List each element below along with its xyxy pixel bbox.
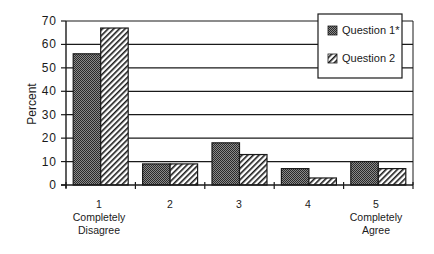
category-sublabel-5b: Agree: [362, 224, 390, 236]
legend-swatch-q2: [328, 54, 337, 63]
y-tick-label: 70: [42, 14, 57, 28]
bar-q2-cat3: [240, 155, 268, 185]
bar-q1-cat2: [143, 164, 171, 185]
y-tick-label: 10: [42, 155, 57, 169]
y-tick-label: 0: [49, 178, 57, 192]
y-tick-label: 60: [42, 37, 57, 51]
category-label-5: 5: [373, 198, 379, 210]
category-sublabel-5a: Completely: [350, 211, 403, 223]
bar-q2-cat4: [309, 178, 337, 185]
legend-label-q1: Question 1*: [342, 24, 400, 36]
y-tick-label: 50: [42, 61, 57, 75]
bar-chart: 010203040506070 Percent Question 1* Ques…: [0, 0, 434, 254]
bar-q2-cat2: [170, 164, 198, 185]
legend-swatch-q1: [328, 26, 337, 35]
y-tick-label: 40: [42, 84, 57, 98]
category-sublabel-1a: Completely: [73, 211, 126, 223]
bar-q1-cat4: [281, 169, 309, 185]
bar-q2-cat5: [378, 169, 406, 185]
category-label-1: 1: [96, 198, 102, 210]
category-labels: 1 Completely Disagree 2 3 4 5 Completely…: [73, 198, 403, 236]
legend: Question 1* Question 2: [318, 14, 402, 78]
y-axis-title: Percent: [25, 83, 39, 125]
bar-q2-cat1: [101, 28, 129, 185]
bar-q1-cat3: [212, 143, 240, 185]
category-label-4: 4: [305, 198, 311, 210]
bar-q1-cat5: [351, 162, 379, 185]
category-label-2: 2: [167, 198, 173, 210]
y-tick-label: 20: [42, 131, 57, 145]
y-tick-label: 30: [42, 108, 57, 122]
category-sublabel-1b: Disagree: [78, 224, 120, 236]
bar-q1-cat1: [73, 54, 101, 185]
category-label-3: 3: [236, 198, 242, 210]
legend-label-q2: Question 2: [342, 52, 395, 64]
